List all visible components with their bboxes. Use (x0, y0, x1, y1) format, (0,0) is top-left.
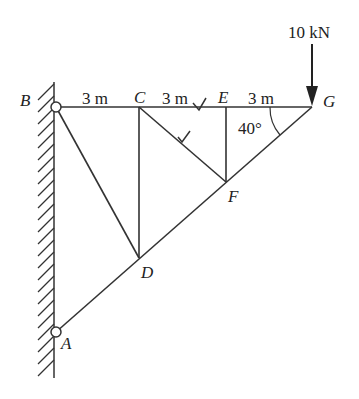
angle-arc (270, 107, 280, 135)
node-g-label: G (323, 93, 335, 110)
check-mark-ce (193, 98, 206, 110)
truss-members (56, 107, 312, 332)
check-mark-cf (178, 131, 190, 142)
truss-diagram: 10 kN B 3 m C 3 m E 3 m G 40° F D A (0, 0, 359, 399)
angle-label: 40° (238, 120, 262, 137)
node-a-label: A (61, 335, 71, 352)
pin-b (51, 102, 61, 112)
dim-ce-label: 3 m (162, 90, 188, 107)
node-e-label: E (218, 89, 228, 106)
node-c-label: C (134, 89, 145, 106)
dim-bc-label: 3 m (82, 90, 108, 107)
node-d-label: D (141, 264, 153, 281)
pin-a (51, 327, 61, 337)
node-f-label: F (228, 188, 238, 205)
load-label: 10 kN (288, 24, 330, 41)
node-b-label: B (20, 92, 30, 109)
dim-eg-label: 3 m (248, 90, 274, 107)
truss-drawing (0, 0, 359, 399)
load-arrowhead-icon (306, 86, 318, 106)
